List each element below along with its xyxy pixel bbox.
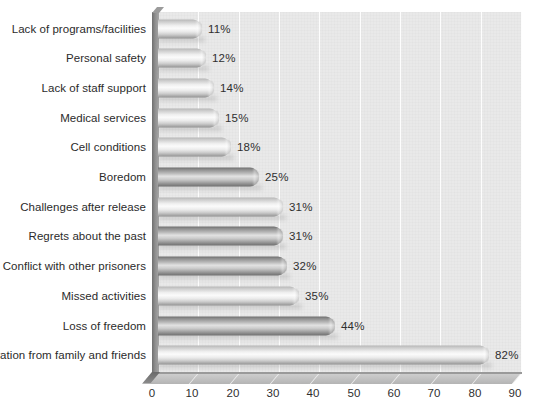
bar-value-label: 32% <box>293 260 317 272</box>
bar-container[interactable] <box>158 197 283 216</box>
bar-row[interactable]: Cell conditions18% <box>0 133 536 162</box>
category-label: Regrets about the past <box>29 230 146 242</box>
bar-row[interactable]: Conflict with other prisoners32% <box>0 252 536 281</box>
bar[interactable] <box>158 257 287 276</box>
x-tick-label-80: 80 <box>469 387 482 399</box>
axis-floor-front-edge <box>152 372 522 374</box>
bar[interactable] <box>158 197 283 216</box>
bar-value-label: 11% <box>208 23 231 35</box>
bar[interactable] <box>158 316 335 335</box>
x-tick-label-50: 50 <box>348 387 361 399</box>
x-tick-label-70: 70 <box>428 387 441 399</box>
x-tick-label-90: 90 <box>509 387 522 399</box>
x-tick-label-30: 30 <box>267 387 280 399</box>
category-label: Lack of staff support <box>42 82 146 94</box>
bar[interactable] <box>158 78 214 97</box>
bar-row[interactable]: Personal safety12% <box>0 44 536 73</box>
bar-container[interactable] <box>158 316 335 335</box>
category-label: Lack of programs/facilities <box>12 23 146 35</box>
bar-row[interactable]: Lack of staff support14% <box>0 73 536 102</box>
bar-value-label: 31% <box>289 201 313 213</box>
category-label: Medical services <box>60 112 146 124</box>
x-tick-label-0: 0 <box>149 387 155 399</box>
bar-container[interactable] <box>158 49 206 68</box>
bar-row[interactable]: Separation from family and friends82% <box>0 341 536 370</box>
bar-value-label: 18% <box>237 141 261 153</box>
x-tick-label-60: 60 <box>388 387 401 399</box>
bar-row[interactable]: Loss of freedom44% <box>0 311 536 340</box>
bar-value-label: 12% <box>212 52 236 64</box>
bar-row[interactable]: Medical services15% <box>0 103 536 132</box>
bar[interactable] <box>158 19 202 38</box>
category-label: Conflict with other prisoners <box>3 260 146 272</box>
bar[interactable] <box>158 346 489 365</box>
bar-container[interactable] <box>158 19 202 38</box>
bar-row[interactable]: Boredom25% <box>0 163 536 192</box>
bar-row[interactable]: Missed activities35% <box>0 281 536 310</box>
x-tick-label-40: 40 <box>307 387 320 399</box>
bar[interactable] <box>158 168 259 187</box>
bar-value-label: 44% <box>341 320 365 332</box>
bar-container[interactable] <box>158 108 219 127</box>
x-tick-label-10: 10 <box>186 387 199 399</box>
bar-value-label: 35% <box>305 290 329 302</box>
bar-row[interactable]: Regrets about the past31% <box>0 222 536 251</box>
bar-container[interactable] <box>158 168 259 187</box>
bar-chart: Lack of programs/facilities11%Personal s… <box>0 0 536 407</box>
bar-value-label: 31% <box>289 230 313 242</box>
category-label: Challenges after release <box>20 201 146 213</box>
category-label: Personal safety <box>66 52 146 64</box>
bar-container[interactable] <box>158 257 287 276</box>
bar-container[interactable] <box>158 227 283 246</box>
category-label: Cell conditions <box>70 141 146 153</box>
bar-container[interactable] <box>158 78 214 97</box>
bar-row[interactable]: Challenges after release31% <box>0 192 536 221</box>
bar-container[interactable] <box>158 138 231 157</box>
bar-value-label: 15% <box>225 112 249 124</box>
bar-value-label: 14% <box>220 82 244 94</box>
bar-value-label: 25% <box>265 171 289 183</box>
category-label: Loss of freedom <box>63 320 146 332</box>
bar-container[interactable] <box>158 346 489 365</box>
x-tick-label-20: 20 <box>227 387 240 399</box>
bar[interactable] <box>158 108 219 127</box>
category-label: Boredom <box>99 171 146 183</box>
bar-container[interactable] <box>158 286 299 305</box>
bar-value-label: 82% <box>495 349 519 361</box>
category-label: Separation from family and friends <box>0 349 146 361</box>
category-label: Missed activities <box>61 290 146 302</box>
bar[interactable] <box>158 138 231 157</box>
bar-row[interactable]: Lack of programs/facilities11% <box>0 14 536 43</box>
bar[interactable] <box>158 286 299 305</box>
bar[interactable] <box>158 49 206 68</box>
bar[interactable] <box>158 227 283 246</box>
